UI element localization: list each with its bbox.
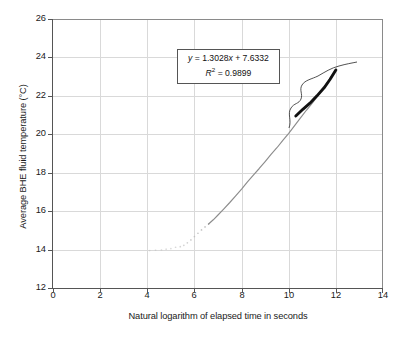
- equation-line: y = 1.3028x + 7.6332: [180, 53, 277, 64]
- data-point: [149, 250, 151, 252]
- data-point: [170, 248, 172, 250]
- data-point: [190, 239, 192, 241]
- curly-brace-annotation: [289, 62, 357, 128]
- r-squared-line: R2 = 0.9899: [180, 64, 277, 79]
- chart-figure: Average BHE fluid temperature (°C) Natur…: [0, 0, 401, 337]
- data-point: [161, 249, 163, 251]
- data-point: [183, 244, 185, 246]
- data-point: [204, 226, 206, 228]
- r-squared-value: = 0.9899: [215, 68, 251, 78]
- horizontal-gridlines: [53, 58, 383, 251]
- regression-equation-box: y = 1.3028x + 7.6332 R2 = 0.9899: [177, 49, 280, 84]
- data-point: [155, 249, 157, 251]
- data-point: [165, 248, 167, 250]
- data-point: [197, 232, 199, 234]
- equation-slope: = 1.3028: [192, 53, 228, 63]
- data-point: [187, 242, 189, 244]
- data-point: [201, 229, 203, 231]
- data-point: [179, 246, 181, 248]
- data-scatter-points: [149, 223, 210, 251]
- data-series-line: [209, 69, 336, 224]
- equation-intercept: + 7.6332: [233, 53, 269, 63]
- data-point: [194, 236, 196, 238]
- data-point: [175, 246, 177, 248]
